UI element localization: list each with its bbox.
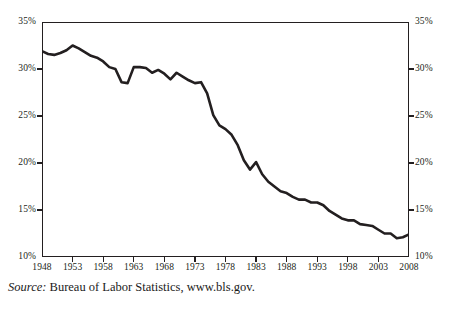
source-text: Bureau of Labor Statistics, www.bls.gov. [50,280,255,294]
y-axis-label-left-25: 25% [18,111,36,121]
line-chart-plot [42,22,409,257]
x-axis-label-1993: 1993 [308,263,327,273]
chart-figure: 35%30%25%20%15%10%35%30%25%20%15%10%1948… [0,0,452,314]
source-note: Source: Bureau of Labor Statistics, www.… [8,280,255,294]
x-axis-label-1953: 1953 [63,263,82,273]
y-axis-label-left-20: 20% [18,158,36,168]
y-axis-tick-right-20 [409,162,414,163]
x-axis-label-1978: 1978 [216,263,235,273]
y-axis-tick-right-25 [409,115,414,116]
x-axis-label-1983: 1983 [246,263,265,273]
y-axis-tick-left-30 [37,68,42,69]
source-label: Source: [8,280,46,294]
y-axis-label-left-30: 30% [18,64,36,74]
y-axis-tick-right-15 [409,209,414,210]
x-axis-label-1998: 1998 [338,263,357,273]
x-axis-label-1948: 1948 [32,263,51,273]
y-axis-label-right-25: 25% [415,111,433,121]
data-series-line [42,46,409,239]
x-axis-label-1963: 1963 [124,263,143,273]
x-axis-label-2008: 2008 [399,263,418,273]
y-axis-tick-right-30 [409,68,414,69]
y-axis-label-right-15: 15% [415,205,433,215]
y-axis-label-left-35: 35% [18,17,36,27]
x-axis-label-1988: 1988 [277,263,296,273]
x-axis-label-1968: 1968 [155,263,174,273]
y-axis-tick-left-15 [37,209,42,210]
y-axis-label-right-10: 10% [415,252,433,262]
y-axis-label-left-15: 15% [18,205,36,215]
x-axis-label-2003: 2003 [369,263,388,273]
y-axis-tick-left-25 [37,115,42,116]
y-axis-tick-left-20 [37,162,42,163]
y-axis-label-right-35: 35% [415,17,433,27]
x-axis-label-1958: 1958 [93,263,112,273]
y-axis-label-right-20: 20% [415,158,433,168]
y-axis-label-right-30: 30% [415,64,433,74]
x-axis-label-1973: 1973 [185,263,204,273]
y-axis-label-left-10: 10% [18,252,36,262]
